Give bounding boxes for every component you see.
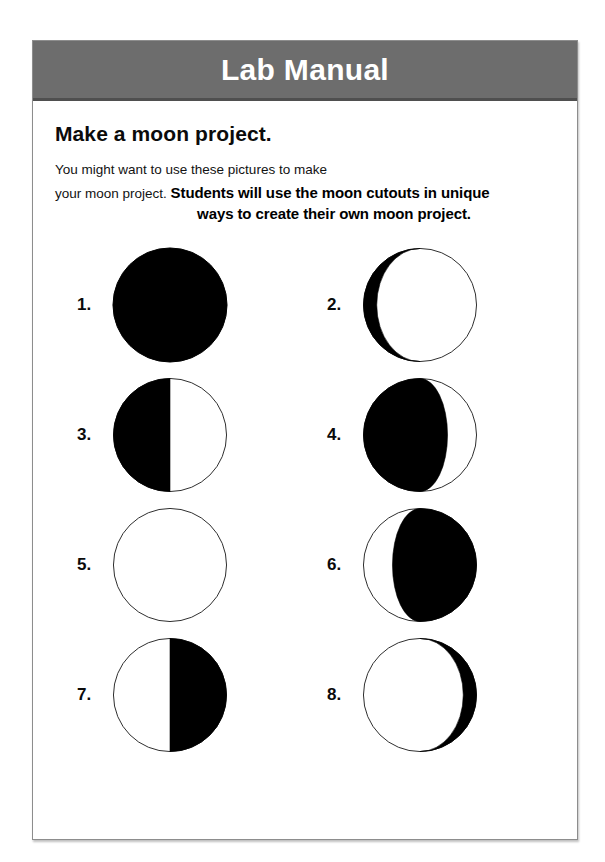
moon-label-7: 7. (77, 685, 111, 705)
moon-item-6[interactable]: 6. (305, 500, 555, 630)
moon-label-1: 1. (77, 295, 111, 315)
moon-item-2[interactable]: 2. (305, 240, 555, 370)
lab-manual-page: Lab Manual Make a moon project. You migh… (32, 40, 578, 840)
intro-line-2: your moon project. (55, 186, 167, 201)
moon-label-4: 4. (327, 425, 361, 445)
moon-item-5[interactable]: 5. (55, 500, 305, 630)
moon-label-3: 3. (77, 425, 111, 445)
page-header-band: Lab Manual (33, 41, 577, 101)
moon-phase-grid: 1. 2. 3. (55, 240, 555, 760)
moon-phase-full-icon (111, 506, 229, 624)
moon-label-8: 8. (327, 685, 361, 705)
moon-phase-waning-gibbous-icon (361, 506, 479, 624)
moon-label-5: 5. (77, 555, 111, 575)
section-title: Make a moon project. (55, 122, 555, 146)
moon-item-7[interactable]: 7. (55, 630, 305, 760)
moon-item-3[interactable]: 3. (55, 370, 305, 500)
moon-item-4[interactable]: 4. (305, 370, 555, 500)
moon-item-1[interactable]: 1. (55, 240, 305, 370)
moon-phase-new-icon (111, 246, 229, 364)
moon-phase-waning-crescent-icon (361, 246, 479, 364)
answer-line-2: ways to create their own moon project. (113, 205, 555, 222)
page-content: Make a moon project. You might want to u… (33, 104, 577, 838)
moon-phase-last-quarter-icon (111, 376, 229, 494)
moon-phase-waxing-gibbous-icon (361, 376, 479, 494)
intro-line-2-row: your moon project. Students will use the… (55, 181, 555, 205)
moon-label-2: 2. (327, 295, 361, 315)
moon-item-8[interactable]: 8. (305, 630, 555, 760)
moon-phase-waxing-crescent-icon (361, 636, 479, 754)
page-title: Lab Manual (221, 55, 389, 85)
moon-phase-first-quarter-icon (111, 636, 229, 754)
intro-text-block: You might want to use these pictures to … (55, 160, 555, 222)
intro-line-1: You might want to use these pictures to … (55, 160, 555, 181)
answer-line-1: Students will use the moon cutouts in un… (171, 184, 490, 201)
moon-label-6: 6. (327, 555, 361, 575)
